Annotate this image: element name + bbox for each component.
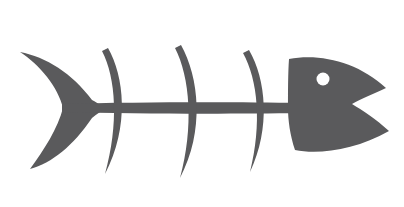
spine-shape — [62, 102, 302, 113]
eye-icon — [317, 73, 330, 86]
image-canvas: Fish skeleton silhouette fishbone flat v… — [0, 0, 404, 207]
fish-skeleton-illustration — [0, 0, 404, 207]
